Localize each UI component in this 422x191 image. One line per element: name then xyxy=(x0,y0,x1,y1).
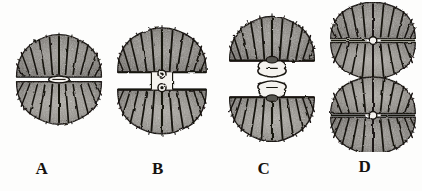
semicell-upper xyxy=(230,14,315,61)
specimen-d xyxy=(326,2,420,152)
developing-semicells xyxy=(258,56,286,101)
figure-root: Stages in cell division of a desmid xyxy=(0,0,422,191)
specimen-c xyxy=(222,12,322,142)
semicell-upper xyxy=(118,25,206,72)
daughter-cell-lower xyxy=(331,74,415,152)
nucleus-lower xyxy=(158,84,166,92)
isthmus-neck xyxy=(151,70,172,92)
stage-label-b: B xyxy=(148,160,168,177)
nucleus-upper xyxy=(158,70,166,78)
stage-label-c: C xyxy=(254,160,274,177)
specimen-b xyxy=(112,18,212,140)
stage-label-a: A xyxy=(32,160,52,177)
specimen-a-drawing xyxy=(10,22,108,134)
semicell-lower xyxy=(17,82,102,126)
stage-label-d: D xyxy=(355,158,375,175)
isthmus xyxy=(49,76,70,83)
specimen-b-drawing xyxy=(112,18,212,140)
specimen-d-drawing xyxy=(326,2,420,152)
specimen-c-drawing xyxy=(222,12,322,142)
semicell-upper xyxy=(17,33,102,77)
daughter-cell-upper xyxy=(331,2,415,82)
specimen-a xyxy=(10,22,108,134)
semicell-lower xyxy=(230,97,315,142)
semicell-lower xyxy=(118,90,206,137)
